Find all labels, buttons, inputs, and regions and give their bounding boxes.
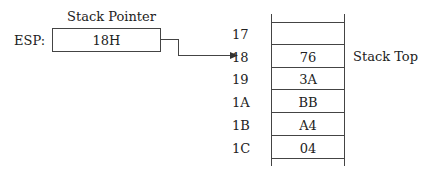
stack-cell: 04 [272,141,344,156]
stack-address: 1C [232,141,262,156]
connector-line [160,39,179,40]
connector-line [178,39,179,56]
stack-cell: BB [272,95,344,110]
esp-register-box: 18H [52,28,161,52]
stack-address: 19 [232,72,262,87]
stack-divider [271,67,345,68]
stack-top-label: Stack Top [353,50,418,63]
stack-address: 17 [232,27,262,42]
stack-divider [271,158,345,159]
stack-cell: 76 [272,50,344,65]
connector-line [178,55,234,56]
esp-label: ESP: [14,34,45,47]
stack-divider [271,112,345,113]
stack-divider [271,44,345,45]
esp-value: 18H [53,34,160,47]
stack-address: 18 [232,50,262,65]
stack-divider [271,89,345,90]
stack-cell: 3A [272,72,344,87]
stack-divider [271,135,345,136]
stack-address: 1A [232,95,262,110]
stack-address: 1B [232,118,262,133]
stack-pointer-title: Stack Pointer [67,10,156,23]
stack-right-edge [344,14,345,166]
stack-divider [271,22,345,23]
stack-cell: A4 [272,118,344,133]
